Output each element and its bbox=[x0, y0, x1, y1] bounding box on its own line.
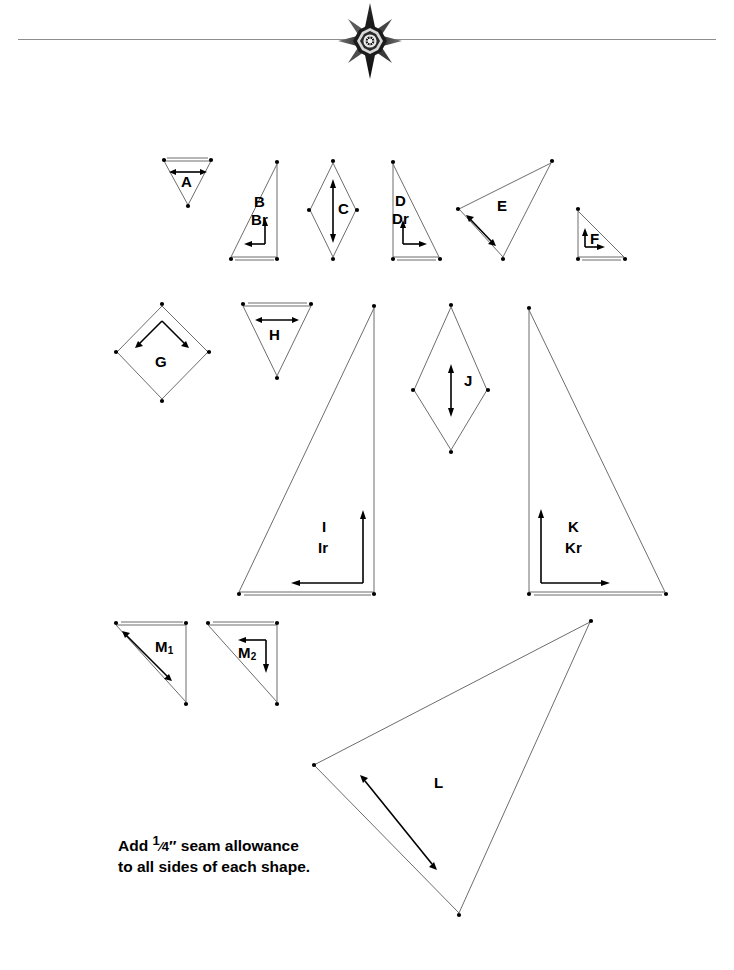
shape-F bbox=[576, 207, 627, 261]
shape-label-Dr: Dr bbox=[392, 210, 409, 228]
shape-label-M1-letter: M bbox=[155, 638, 168, 655]
shape-label-B: B bbox=[254, 193, 265, 211]
shape-label-M2-subscript: 2 bbox=[251, 651, 257, 662]
grain-arrow-E bbox=[466, 215, 496, 246]
shape-label-C: C bbox=[338, 201, 349, 218]
shape-C bbox=[307, 159, 359, 261]
caption-fraction-numerator: 1 bbox=[152, 833, 159, 848]
shape-M2 bbox=[206, 621, 279, 706]
caption-line2: to all sides of each shape. bbox=[118, 857, 418, 877]
shape-label-F: F bbox=[590, 231, 599, 248]
shape-label-A: A bbox=[181, 174, 192, 191]
shape-label-M1: M1 bbox=[155, 639, 173, 656]
shape-label-I: I bbox=[322, 518, 326, 536]
shape-I bbox=[237, 304, 376, 596]
shape-label-Ir: Ir bbox=[318, 539, 328, 557]
shape-label-D: D bbox=[395, 192, 406, 210]
caption-line1-suffix: ″ seam allowance bbox=[169, 837, 299, 854]
shape-label-Kr: Kr bbox=[565, 539, 582, 557]
caption-fraction-denominator: 4 bbox=[162, 839, 169, 854]
shape-label-Br: Br bbox=[251, 211, 268, 229]
shape-label-M2-letter: M bbox=[238, 644, 251, 661]
shape-label-M1-subscript: 1 bbox=[168, 645, 174, 656]
shape-label-J: J bbox=[464, 373, 473, 390]
seam-allowance-caption: Add 1⁄4″ seam allowance to all sides of … bbox=[118, 832, 418, 877]
grain-arrow-J bbox=[448, 364, 454, 417]
template-shapes-canvas bbox=[0, 0, 734, 970]
shape-label-G: G bbox=[155, 354, 167, 371]
shape-label-E: E bbox=[497, 198, 507, 215]
grain-arrow-I bbox=[291, 510, 366, 586]
grain-arrow-C bbox=[330, 179, 336, 243]
shape-label-K: K bbox=[568, 518, 579, 536]
grain-arrow-H bbox=[255, 317, 299, 323]
pattern-sheet-page: A B Br C D Dr E F G H I Ir J K Kr M1 M2 … bbox=[0, 0, 734, 970]
shape-label-H: H bbox=[269, 327, 280, 344]
shape-J bbox=[411, 303, 490, 454]
shape-K bbox=[527, 306, 668, 596]
shape-M1 bbox=[114, 621, 188, 706]
caption-line1-prefix: Add bbox=[118, 837, 152, 854]
shape-label-L: L bbox=[434, 775, 443, 792]
shape-label-M2: M2 bbox=[238, 645, 256, 662]
